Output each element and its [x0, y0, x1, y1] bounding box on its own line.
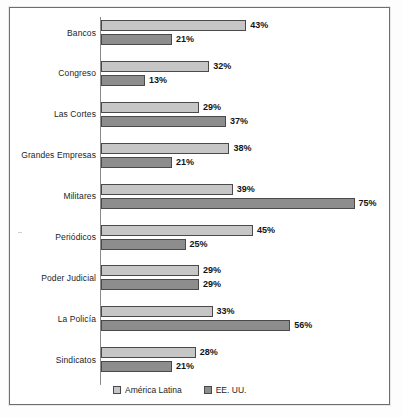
- legend-swatch-icon: [204, 386, 212, 394]
- category-label: Militares: [0, 191, 96, 201]
- bar-america-latina: [101, 143, 229, 154]
- bar-row: 29%: [101, 102, 391, 113]
- bar-row: 21%: [101, 361, 391, 372]
- bar-value-label: 56%: [294, 319, 312, 331]
- bar-group: Poder Judicial29%29%: [0, 265, 402, 290]
- bar-row: 25%: [101, 239, 391, 250]
- category-label: Congreso: [0, 68, 96, 78]
- category-label: Grandes Empresas: [0, 150, 96, 160]
- bar-ee-uu: [101, 157, 172, 168]
- bar-row: 43%: [101, 20, 391, 31]
- category-label: Las Cortes: [0, 109, 96, 119]
- bar-ee-uu: [101, 198, 355, 209]
- bar-row: 21%: [101, 157, 391, 168]
- bar-america-latina: [101, 347, 196, 358]
- bar-row: 45%: [101, 225, 391, 236]
- category-label: Bancos: [0, 28, 96, 38]
- bar-group: La Policía33%56%: [0, 306, 402, 331]
- bar-value-label: 75%: [359, 197, 377, 209]
- bar-value-label: 29%: [203, 264, 221, 276]
- bar-value-label: 33%: [217, 305, 235, 317]
- bar-group: Sindicatos28%21%: [0, 347, 402, 372]
- legend-label: América Latina: [125, 385, 182, 395]
- bar-america-latina: [101, 102, 199, 113]
- bar-value-label: 43%: [250, 19, 268, 31]
- bar-value-label: 21%: [176, 360, 194, 372]
- bar-row: 21%: [101, 34, 391, 45]
- bar-america-latina: [101, 225, 253, 236]
- bar-ee-uu: [101, 34, 172, 45]
- bar-value-label: 13%: [149, 74, 167, 86]
- legend-swatch-icon: [113, 386, 121, 394]
- category-label: Poder Judicial: [0, 273, 96, 283]
- bar-row: 13%: [101, 75, 391, 86]
- bar-america-latina: [101, 184, 233, 195]
- bar-row: 39%: [101, 184, 391, 195]
- bar-value-label: 32%: [213, 60, 231, 72]
- bar-group: Las Cortes29%37%: [0, 102, 402, 127]
- bar-group: Militares39%75%: [0, 184, 402, 209]
- bar-value-label: 25%: [190, 238, 208, 250]
- bar-ee-uu: [101, 75, 145, 86]
- chart-legend: América LatinaEE. UU.: [113, 383, 246, 397]
- bar-group: Bancos43%21%: [0, 20, 402, 45]
- chart-figure: Bancos43%21%Congreso32%13%Las Cortes29%3…: [0, 0, 402, 417]
- plot-area: Bancos43%21%Congreso32%13%Las Cortes29%3…: [0, 0, 402, 417]
- legend-item: América Latina: [113, 385, 182, 395]
- bar-value-label: 39%: [237, 183, 255, 195]
- bar-row: 29%: [101, 279, 391, 290]
- bar-row: 29%: [101, 265, 391, 276]
- bar-row: 37%: [101, 116, 391, 127]
- bar-ee-uu: [101, 239, 186, 250]
- bar-row: 33%: [101, 306, 391, 317]
- bar-row: 28%: [101, 347, 391, 358]
- bar-america-latina: [101, 265, 199, 276]
- bar-america-latina: [101, 20, 246, 31]
- bar-row: 56%: [101, 320, 391, 331]
- bar-value-label: 29%: [203, 278, 221, 290]
- bar-value-label: 21%: [176, 33, 194, 45]
- bar-america-latina: [101, 61, 209, 72]
- bar-value-label: 45%: [257, 224, 275, 236]
- category-label: Periódicos: [0, 232, 96, 242]
- bar-row: 38%: [101, 143, 391, 154]
- legend-item: EE. UU.: [204, 385, 247, 395]
- legend-label: EE. UU.: [216, 385, 247, 395]
- bar-ee-uu: [101, 361, 172, 372]
- bar-ee-uu: [101, 320, 290, 331]
- bar-group: Periódicos45%25%: [0, 225, 402, 250]
- bar-value-label: 28%: [200, 346, 218, 358]
- bar-ee-uu: [101, 116, 226, 127]
- bar-row: 32%: [101, 61, 391, 72]
- category-label: La Policía: [0, 314, 96, 324]
- category-label: Sindicatos: [0, 355, 96, 365]
- bar-value-label: 21%: [176, 156, 194, 168]
- bar-value-label: 37%: [230, 115, 248, 127]
- bar-group: Grandes Empresas38%21%: [0, 143, 402, 168]
- bar-value-label: 38%: [233, 142, 251, 154]
- bar-ee-uu: [101, 279, 199, 290]
- bar-group: Congreso32%13%: [0, 61, 402, 86]
- bar-value-label: 29%: [203, 101, 221, 113]
- bar-america-latina: [101, 306, 213, 317]
- bar-row: 75%: [101, 198, 391, 209]
